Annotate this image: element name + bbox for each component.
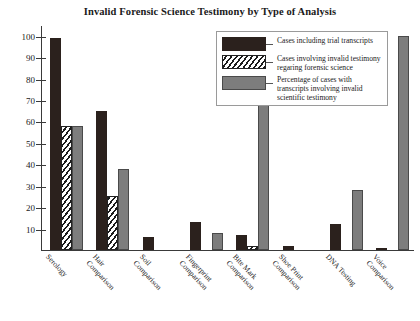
legend-swatch bbox=[222, 37, 266, 51]
legend-label: Cases including trial transcripts bbox=[273, 36, 373, 45]
x-axis-category-labels: SerologyHairComparisonSoilComparisonFing… bbox=[41, 253, 414, 321]
bar bbox=[283, 246, 294, 250]
legend-swatch bbox=[222, 55, 266, 69]
bar-group bbox=[50, 25, 83, 250]
legend-label: Percentage of cases with transcripts inv… bbox=[273, 75, 383, 102]
y-axis-tick-label: 30 bbox=[5, 182, 35, 191]
legend-label: Cases involving invalid testimony regari… bbox=[273, 54, 383, 72]
chart-legend: Cases including trial transcriptsCases i… bbox=[216, 31, 388, 106]
x-axis-category-label: DNA Testing bbox=[324, 253, 358, 288]
x-axis-category-label: Bite MarkComparison bbox=[224, 253, 262, 292]
bar bbox=[236, 235, 247, 250]
x-axis-category-label: SoilComparison bbox=[131, 253, 169, 292]
legend-connector bbox=[266, 44, 273, 45]
y-axis-tick-label: 50 bbox=[5, 139, 35, 148]
x-axis-category-label: Serology bbox=[44, 253, 69, 279]
y-axis-tick-label: 80 bbox=[5, 75, 35, 84]
y-axis-tick-label: 40 bbox=[5, 161, 35, 170]
legend-connector bbox=[266, 62, 273, 63]
y-axis-tick-label: 20 bbox=[5, 204, 35, 213]
legend-entry: Percentage of cases with transcripts inv… bbox=[222, 75, 383, 102]
bar bbox=[50, 38, 61, 250]
bar bbox=[61, 126, 72, 250]
legend-connector bbox=[266, 83, 273, 84]
x-axis-category-label: VoiceComparison bbox=[364, 253, 402, 292]
bar-group bbox=[143, 25, 176, 250]
bar bbox=[143, 237, 154, 250]
legend-swatch bbox=[222, 76, 266, 90]
bar bbox=[352, 190, 363, 250]
bar bbox=[72, 126, 83, 250]
bar bbox=[247, 246, 258, 250]
y-axis-tick-label: 70 bbox=[5, 97, 35, 106]
bar bbox=[376, 248, 387, 250]
y-axis-tick-label: 10 bbox=[5, 225, 35, 234]
bar bbox=[190, 222, 201, 250]
chart-title: Invalid Forensic Science Testimony by Ty… bbox=[0, 6, 420, 17]
x-axis-category-label: HairComparison bbox=[84, 253, 122, 292]
chart-container: Invalid Forensic Science Testimony by Ty… bbox=[0, 0, 420, 321]
bar bbox=[212, 233, 223, 250]
legend-entry: Cases including trial transcripts bbox=[222, 36, 383, 51]
bar bbox=[96, 111, 107, 250]
bar bbox=[258, 104, 269, 250]
y-axis-tick-label: 60 bbox=[5, 118, 35, 127]
bar bbox=[330, 224, 341, 250]
bar bbox=[398, 36, 409, 250]
bar bbox=[107, 196, 118, 250]
bar bbox=[118, 169, 129, 250]
y-axis-tick-label: 90 bbox=[5, 54, 35, 63]
x-axis-category-label: FingerprintComparison bbox=[178, 253, 216, 292]
x-axis-category-label: Shoe PrintComparison bbox=[271, 253, 309, 292]
legend-entry: Cases involving invalid testimony regari… bbox=[222, 54, 383, 72]
bar-group bbox=[96, 25, 129, 250]
y-axis-tick-label: 100 bbox=[5, 32, 35, 41]
x-axis-line bbox=[41, 250, 414, 251]
